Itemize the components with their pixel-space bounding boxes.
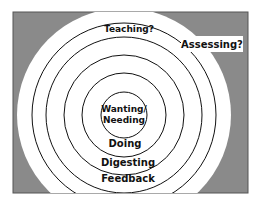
label-feedback: Feedback [101, 173, 155, 184]
label-digesting: Digesting [101, 157, 155, 168]
label-needing: Needing [103, 115, 145, 125]
label-doing: Doing [109, 138, 142, 149]
label-assessing: Assessing? [181, 39, 243, 50]
label-teaching: Teaching? [104, 24, 154, 34]
diagram-canvas: Wanting/ Needing Doing Digesting Feedbac… [0, 0, 260, 203]
concentric-circles-diagram: Wanting/ Needing Doing Digesting Feedbac… [0, 0, 260, 203]
label-wanting: Wanting/ [101, 104, 147, 114]
